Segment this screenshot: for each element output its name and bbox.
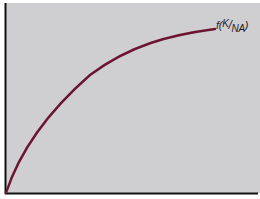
curve-label: f(K/NA) [216,18,248,32]
label-denominator: NA [232,23,245,34]
label-suffix: ) [245,19,248,31]
label-numerator: K [222,18,228,29]
